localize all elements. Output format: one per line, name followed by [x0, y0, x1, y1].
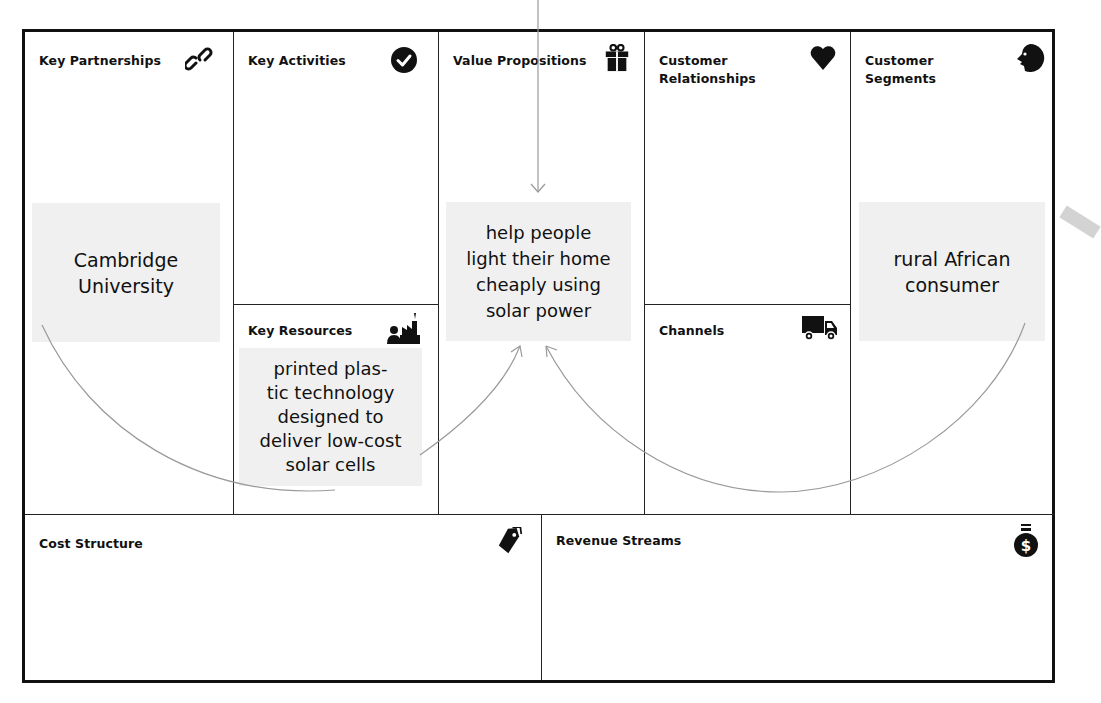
note-line: light their home — [466, 246, 610, 272]
block-key-activities[interactable]: Key Activities — [234, 32, 439, 305]
title-line: Customer — [659, 52, 756, 70]
price-tag-icon — [495, 527, 523, 555]
block-title: Key Resources — [248, 322, 352, 340]
note-line: University — [74, 273, 178, 299]
sticky-note-resource[interactable]: printed plas- tic technology designed to… — [239, 348, 422, 486]
decorative-stripe — [1059, 205, 1100, 238]
note-line: cheaply using — [466, 272, 610, 298]
checkmark-circle-icon — [390, 46, 418, 74]
note-line: deliver low-cost — [260, 429, 402, 453]
link-icon — [185, 46, 213, 74]
heart-icon — [809, 44, 837, 72]
truck-icon — [801, 314, 839, 342]
money-bag-icon: $ — [1012, 523, 1040, 559]
note-line: tic technology — [260, 381, 402, 405]
block-title: Key Partnerships — [39, 52, 161, 70]
title-line: Segments — [865, 70, 936, 88]
block-title: Channels — [659, 322, 724, 340]
block-title: Revenue Streams — [556, 532, 681, 550]
note-line: printed plas- — [260, 357, 402, 381]
note-line: designed to — [260, 405, 402, 429]
block-revenue-streams[interactable]: Revenue Streams $ — [542, 515, 1055, 680]
block-customer-relationships[interactable]: Customer Relationships — [645, 32, 851, 305]
block-title: Key Activities — [248, 52, 346, 70]
title-line: Customer — [865, 52, 936, 70]
block-title: Cost Structure — [39, 535, 143, 553]
business-model-canvas: Key Partnerships Key Activities Key Reso… — [22, 29, 1055, 683]
sticky-note-segment[interactable]: rural African consumer — [859, 202, 1045, 341]
block-title: Value Propositions — [453, 52, 587, 70]
sticky-note-value[interactable]: help people light their home cheaply usi… — [446, 202, 631, 341]
note-line: solar cells — [260, 453, 402, 477]
title-line: Relationships — [659, 70, 756, 88]
svg-text:$: $ — [1021, 537, 1031, 555]
sticky-note-partner[interactable]: Cambridge University — [32, 203, 220, 342]
note-line: consumer — [894, 272, 1011, 298]
block-title: Customer Segments — [865, 52, 936, 88]
gift-icon — [603, 44, 631, 72]
block-title: Customer Relationships — [659, 52, 756, 88]
note-line: solar power — [466, 298, 610, 324]
block-cost-structure[interactable]: Cost Structure — [25, 515, 542, 680]
note-line: Cambridge — [74, 247, 178, 273]
note-line: rural African — [894, 246, 1011, 272]
factory-worker-icon — [386, 311, 422, 345]
block-channels[interactable]: Channels — [645, 305, 851, 515]
face-profile-icon — [1013, 42, 1045, 74]
note-line: help people — [466, 220, 610, 246]
